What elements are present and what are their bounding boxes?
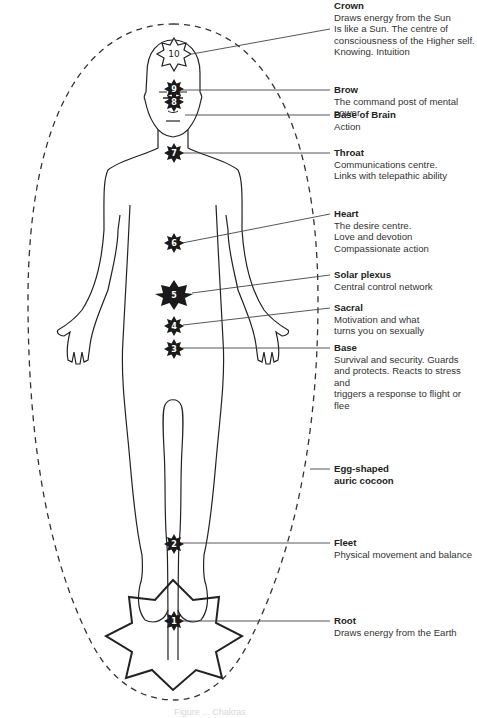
- figure-caption: Figure ... Chakras: [150, 707, 270, 718]
- label-heart-line: Love and devotion: [334, 231, 429, 243]
- label-base-of-brain: Base of Brain Action: [334, 109, 396, 132]
- label-throat-line: Links with telepathic ability: [334, 170, 447, 182]
- svg-text:10: 10: [168, 49, 180, 59]
- chakra-4-sacral: 4: [164, 316, 184, 336]
- label-throat-line: Communications centre.: [334, 159, 447, 171]
- label-brow-title: Brow: [334, 84, 477, 96]
- svg-text:3: 3: [171, 345, 177, 354]
- label-base-line: Survival and security. Guards: [334, 354, 477, 366]
- label-solar-plexus: Solar plexus Central control network: [334, 269, 433, 292]
- label-heart: Heart The desire centre. Love and devoti…: [334, 208, 429, 254]
- svg-text:2: 2: [171, 540, 177, 549]
- chakra-2-fleet: 2: [164, 534, 184, 554]
- label-solar-plexus-title: Solar plexus: [334, 269, 433, 281]
- label-fleet: Fleet Physical movement and balance: [334, 537, 472, 560]
- label-crown-line: Is like a Sun. The centre of: [334, 23, 475, 35]
- chakra-5-solar-plexus: 5: [155, 280, 193, 310]
- label-sacral-title: Sacral: [334, 302, 424, 314]
- label-solar-plexus-line: Central control network: [334, 281, 433, 293]
- label-base-line: and protects. Reacts to stress and: [334, 365, 477, 388]
- label-fleet-title: Fleet: [334, 537, 472, 549]
- label-sacral-line: turns you on sexually: [334, 325, 424, 337]
- label-throat: Throat Communications centre. Links with…: [334, 147, 447, 182]
- label-base-title: Base: [334, 342, 477, 354]
- chakra-7-throat: 7: [164, 143, 184, 163]
- label-throat-title: Throat: [334, 147, 447, 159]
- label-root: Root Draws energy from the Earth: [334, 615, 457, 638]
- label-base-of-brain-title: Base of Brain: [334, 109, 396, 121]
- root-star-outline: [106, 580, 242, 690]
- chakra-8-base-of-brain: 8: [164, 92, 184, 112]
- svg-text:4: 4: [171, 322, 177, 331]
- label-sacral-line: Motivation and what: [334, 314, 424, 326]
- label-base-of-brain-line: Action: [334, 121, 396, 133]
- label-root-title: Root: [334, 615, 457, 627]
- label-sacral: Sacral Motivation and what turns you on …: [334, 302, 424, 337]
- label-fleet-line: Physical movement and balance: [334, 549, 472, 561]
- svg-text:7: 7: [171, 149, 177, 158]
- label-base: Base Survival and security. Guards and p…: [334, 342, 477, 411]
- label-root-line: Draws energy from the Earth: [334, 627, 457, 639]
- svg-text:8: 8: [171, 98, 177, 107]
- label-crown-line: Draws energy from the Sun: [334, 12, 475, 24]
- label-crown-title: Crown: [334, 0, 475, 12]
- label-crown: Crown Draws energy from the Sun Is like …: [334, 0, 475, 58]
- leader-lines: [182, 29, 330, 621]
- svg-text:9: 9: [171, 85, 177, 94]
- label-auric-cocoon-line: Egg-shaped: [334, 463, 394, 475]
- label-base-line: triggers a response to flight or flee: [334, 388, 477, 411]
- label-crown-line: Knowing. Intuition: [334, 46, 475, 58]
- svg-text:6: 6: [171, 239, 177, 248]
- label-auric-cocoon: Egg-shaped auric cocoon: [334, 463, 394, 486]
- chakra-6-heart: 6: [164, 233, 184, 253]
- chakra-1-root: 1: [164, 611, 184, 631]
- label-heart-title: Heart: [334, 208, 429, 220]
- svg-text:1: 1: [171, 617, 177, 626]
- label-heart-line: Compassionate action: [334, 243, 429, 255]
- label-heart-line: The desire centre.: [334, 220, 429, 232]
- label-auric-cocoon-line: auric cocoon: [334, 475, 394, 487]
- label-crown-line: consciousness of the Higher self.: [334, 35, 475, 47]
- chakra-10-crown: 10: [157, 38, 191, 71]
- chakra-3-base: 3: [164, 339, 184, 359]
- svg-text:5: 5: [171, 291, 177, 300]
